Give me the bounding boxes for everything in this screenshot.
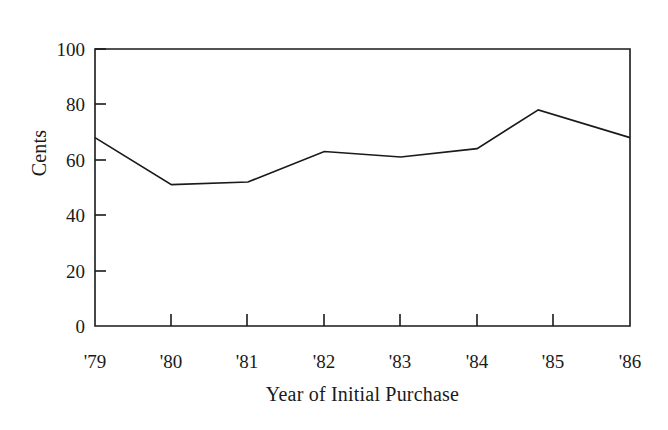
chart-figure: Cents Year of Initial Purchase 100 80 60… xyxy=(0,0,668,430)
y-tick-label-100: 100 xyxy=(57,39,86,60)
y-tick-label-0: 0 xyxy=(76,316,86,337)
x-tick-label-83: '83 xyxy=(389,351,411,372)
y-tick-label-40: 40 xyxy=(66,205,85,226)
x-tick-label-85: '85 xyxy=(542,351,564,372)
x-tick-label-86: '86 xyxy=(619,351,641,372)
x-tick-label-81: '81 xyxy=(236,351,258,372)
plot-frame xyxy=(95,49,630,326)
plot-area: 100 80 60 40 20 0 '79 '80 '81 '82 '83 '8… xyxy=(0,0,668,430)
y-tick-label-20: 20 xyxy=(66,261,85,282)
x-tick-label-80: '80 xyxy=(160,351,182,372)
y-tick-labels: 100 80 60 40 20 0 xyxy=(57,39,86,337)
y-tick-marks xyxy=(95,49,106,271)
x-tick-label-79: '79 xyxy=(84,351,106,372)
x-tick-label-82: '82 xyxy=(313,351,335,372)
y-tick-label-60: 60 xyxy=(66,150,85,171)
x-tick-labels: '79 '80 '81 '82 '83 '84 '85 '86 xyxy=(84,351,641,372)
x-tick-label-84: '84 xyxy=(466,351,489,372)
x-tick-marks xyxy=(171,314,553,326)
data-series-line xyxy=(95,110,630,185)
y-tick-label-80: 80 xyxy=(66,94,85,115)
